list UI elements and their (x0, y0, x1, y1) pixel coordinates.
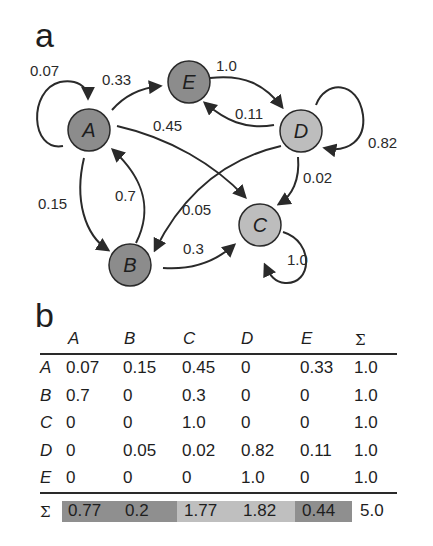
cell-A-B: 0.15 (123, 358, 156, 378)
cell-A-sum: 1.0 (354, 358, 378, 378)
cell-A-C: 0.45 (182, 358, 215, 378)
cell-A-E: 0.33 (300, 358, 333, 378)
cell-D-E: 0.11 (300, 441, 332, 461)
cell-B-D: 0 (241, 386, 250, 406)
col-header-D: D (241, 329, 253, 349)
row-label-C: C (40, 413, 52, 433)
cell-C-D: 0 (241, 413, 250, 433)
transition-matrix-table: A B C D E Σ A 0.07 0.15 0.45 0 0.33 1.0 … (0, 0, 433, 546)
cell-C-C: 1.0 (182, 413, 206, 433)
cell-E-E: 0 (300, 468, 309, 488)
header-rule (40, 353, 397, 355)
cell-B-B: 0 (123, 386, 132, 406)
cell-D-A: 0 (66, 441, 75, 461)
row-label-E: E (40, 468, 51, 488)
col-header-E: E (301, 329, 312, 349)
cell-D-C: 0.02 (182, 441, 215, 461)
col-header-A: A (68, 329, 79, 349)
cell-A-D: 0 (241, 358, 250, 378)
cell-D-D: 0.82 (241, 441, 274, 461)
cell-E-D: 1.0 (241, 468, 265, 488)
cell-E-C: 0 (182, 468, 191, 488)
cell-B-A: 0.7 (66, 386, 90, 406)
cell-C-B: 0 (123, 413, 132, 433)
sum-rule (40, 492, 397, 494)
col-header-B: B (124, 329, 135, 349)
cell-C-sum: 1.0 (354, 413, 378, 433)
sum-C: 1.77 (184, 501, 217, 521)
cell-E-A: 0 (66, 468, 75, 488)
sum-B: 0.2 (125, 501, 149, 521)
row-label-B: B (40, 386, 51, 406)
cell-B-E: 0 (300, 386, 309, 406)
cell-C-A: 0 (66, 413, 75, 433)
row-label-sum: Σ (40, 502, 51, 522)
cell-C-E: 0 (300, 413, 309, 433)
col-header-C: C (183, 329, 195, 349)
cell-E-B: 0 (123, 468, 132, 488)
col-header-sum: Σ (355, 330, 366, 350)
cell-B-C: 0.3 (182, 386, 206, 406)
sum-total: 5.0 (360, 501, 384, 521)
row-label-A: A (40, 358, 51, 378)
cell-E-sum: 1.0 (354, 468, 378, 488)
cell-B-sum: 1.0 (354, 386, 378, 406)
sum-D: 1.82 (243, 501, 276, 521)
row-label-D: D (40, 441, 52, 461)
sum-A: 0.77 (68, 501, 101, 521)
cell-A-A: 0.07 (66, 358, 99, 378)
sum-E: 0.44 (302, 501, 335, 521)
cell-D-B: 0.05 (123, 441, 156, 461)
cell-D-sum: 1.0 (354, 441, 378, 461)
